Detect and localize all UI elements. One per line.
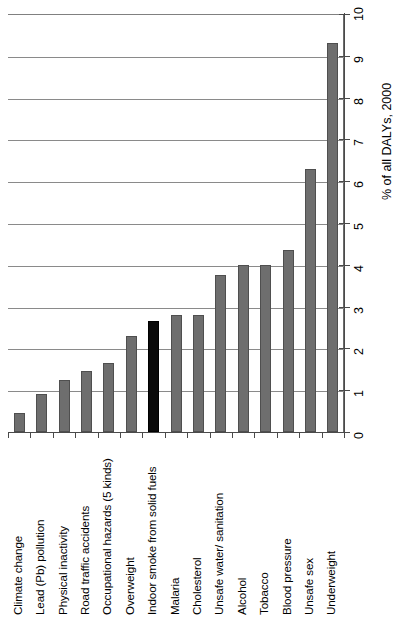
category-label: Underweight [325,551,337,615]
category-label: Climate change [12,536,24,615]
category-tick [210,432,211,438]
bar-slot [254,14,276,432]
bar-slot [165,14,187,432]
value-tick-label-10: 10 [352,0,366,21]
category-label: Unsafe sex [303,558,315,615]
bar-slot [53,14,75,432]
bar-slot [187,14,209,432]
category-tick [254,432,255,438]
value-tick-label-7: 7 [352,120,366,146]
bar [126,336,137,432]
value-tick-4 [339,265,350,266]
bar-slot [210,14,232,432]
bar [215,275,226,432]
value-tick-3 [339,307,350,308]
category-tick [299,432,300,438]
category-tick [165,432,166,438]
category-tick [98,432,99,438]
bar [59,380,70,432]
value-tick-10 [339,14,350,15]
value-tick-label-5: 5 [352,204,366,230]
category-label: Occupational hazards (5 kinds) [101,458,113,615]
value-tick-9 [339,56,350,57]
bar [103,363,114,432]
category-label: Unsafe water/ sanitation [213,493,225,615]
bar-slot [75,14,97,432]
bar [283,250,294,432]
value-tick-label-8: 8 [352,79,366,105]
bar-slot [98,14,120,432]
chart-figure: Climate changeLead (Pb) pollutionPhysica… [0,0,402,617]
bar [81,371,92,432]
bar-series [8,14,344,432]
value-tick-8 [339,98,350,99]
value-tick-6 [339,181,350,182]
category-label: Blood pressure [281,538,293,615]
category-tick [120,432,121,438]
bar-slot [277,14,299,432]
value-axis-title: % of all DALYs, 2000 [380,83,394,200]
value-tick-label-9: 9 [352,37,366,63]
value-tick-2 [339,348,350,349]
bar [36,394,47,432]
category-tick [277,432,278,438]
bar-slot [120,14,142,432]
bar [193,315,204,432]
bar [260,265,271,432]
category-axis-line [8,432,345,433]
bar-slot [232,14,254,432]
category-label: Overweight [124,557,136,615]
value-tick-7 [339,139,350,140]
value-tick-label-1: 1 [352,371,366,397]
bar [327,43,338,432]
category-tick [142,432,143,438]
bar-slot [299,14,321,432]
bar [14,413,25,432]
category-label: Indoor smoke from solid fuels [146,466,158,615]
value-tick-label-6: 6 [352,162,366,188]
bar-slot [142,14,164,432]
category-axis-labels: Climate changeLead (Pb) pollutionPhysica… [8,440,344,615]
category-label: Physical inactivity [57,526,69,615]
category-label: Road traffic accidents [79,506,91,615]
bar [305,169,316,432]
category-tick [187,432,188,438]
bar-slot [8,14,30,432]
category-tick [8,432,9,438]
category-tick [53,432,54,438]
category-tick [232,432,233,438]
category-tick [30,432,31,438]
value-tick-label-4: 4 [352,246,366,272]
value-tick-label-0: 0 [352,413,366,439]
category-tick [322,432,323,438]
value-tick-label-2: 2 [352,329,366,355]
bar-slot [30,14,52,432]
category-label: Alcohol [236,578,248,615]
category-tick [344,432,345,438]
category-label: Lead (Pb) pollution [34,520,46,615]
bar [171,315,182,432]
value-tick-5 [339,223,350,224]
bar [148,321,159,432]
category-tick [75,432,76,438]
category-label: Cholesterol [191,557,203,615]
category-label: Malaria [169,578,181,615]
value-tick-label-3: 3 [352,288,366,314]
bar [238,265,249,432]
value-tick-1 [339,390,350,391]
category-label: Tobacco [258,573,270,615]
